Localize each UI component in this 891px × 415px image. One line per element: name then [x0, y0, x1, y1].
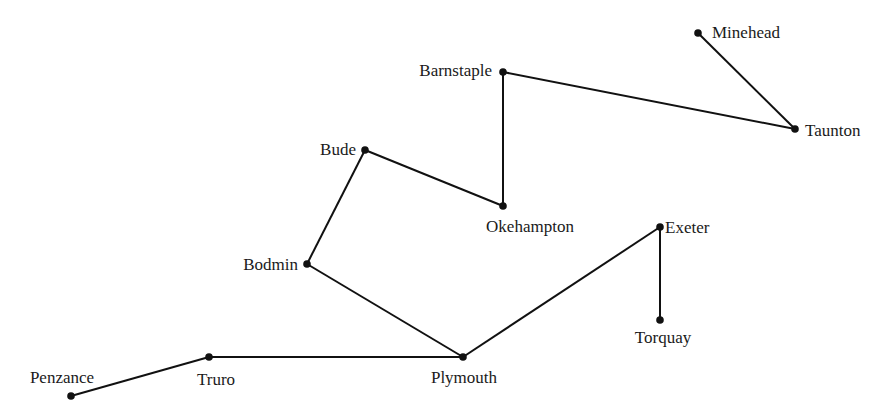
route-network-diagram: MineheadBarnstapleTauntonBudeOkehamptonE…: [0, 0, 891, 415]
edge-plymouth-exeter: [463, 227, 660, 357]
node-taunton: [791, 125, 799, 133]
edge-minehead-taunton: [698, 33, 795, 129]
edge-okehampton-bude: [365, 150, 503, 206]
node-minehead: [694, 29, 702, 37]
node-bodmin: [303, 260, 311, 268]
node-label-taunton: Taunton: [805, 121, 861, 140]
node-truro: [205, 353, 213, 361]
node-label-penzance: Penzance: [30, 368, 94, 387]
node-exeter: [656, 223, 664, 231]
node-okehampton: [499, 202, 507, 210]
node-bude: [361, 146, 369, 154]
node-label-truro: Truro: [197, 370, 235, 389]
node-label-bude: Bude: [320, 140, 356, 159]
node-penzance: [67, 392, 75, 400]
node-label-okehampton: Okehampton: [486, 217, 574, 236]
edge-taunton-barnstaple: [503, 72, 795, 129]
node-label-bodmin: Bodmin: [243, 255, 298, 274]
node-barnstaple: [499, 68, 507, 76]
node-label-plymouth: Plymouth: [431, 368, 498, 387]
labels-layer: MineheadBarnstapleTauntonBudeOkehamptonE…: [30, 23, 861, 389]
node-label-exeter: Exeter: [665, 218, 710, 237]
node-label-minehead: Minehead: [712, 23, 780, 42]
edge-bodmin-plymouth: [307, 264, 463, 357]
node-plymouth: [459, 353, 467, 361]
node-label-torquay: Torquay: [635, 328, 692, 347]
edge-bude-bodmin: [307, 150, 365, 264]
node-label-barnstaple: Barnstaple: [419, 61, 492, 80]
node-torquay: [656, 316, 664, 324]
